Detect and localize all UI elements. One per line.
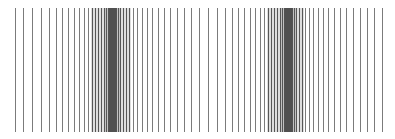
right-group <box>192 8 383 132</box>
left-group <box>16 8 185 132</box>
line-spectrum-svg <box>0 0 395 139</box>
line-spectrum <box>0 0 395 139</box>
